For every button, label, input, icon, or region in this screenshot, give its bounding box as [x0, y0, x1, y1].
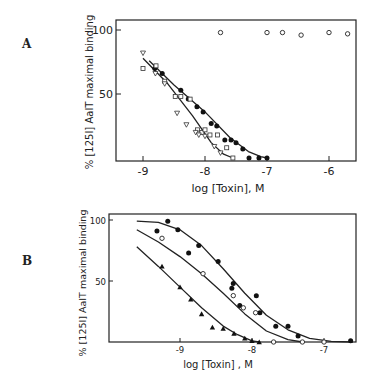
data-point — [231, 156, 235, 160]
panel-b: B -9-8-750100 log [Toxin] , M % [125I] A… — [22, 210, 356, 370]
data-point — [222, 138, 227, 143]
x-tick-label: -8 — [200, 165, 211, 178]
data-point — [194, 104, 199, 109]
data-point — [159, 264, 164, 269]
panel-b-label: B — [22, 254, 32, 268]
data-point — [196, 243, 201, 248]
fit-curve — [137, 221, 353, 342]
data-point — [201, 271, 205, 275]
data-point — [196, 133, 201, 138]
panel-b-frame — [109, 214, 356, 342]
data-point — [141, 51, 146, 56]
data-point — [178, 88, 183, 93]
data-point — [254, 293, 259, 298]
y-tick-label: 100 — [90, 216, 106, 226]
data-point — [201, 109, 206, 114]
x-tick-label: -6 — [324, 165, 335, 178]
data-point — [280, 30, 284, 34]
data-point — [175, 227, 180, 232]
data-point — [208, 133, 212, 137]
data-point — [327, 30, 331, 34]
data-point — [188, 97, 192, 101]
panel-a-label: A — [21, 37, 32, 51]
data-point — [299, 33, 303, 37]
data-point — [322, 340, 326, 344]
data-point — [229, 138, 234, 143]
data-point — [247, 156, 252, 161]
data-point — [215, 133, 219, 137]
data-point — [256, 156, 261, 161]
data-point — [203, 128, 207, 132]
panel-a-points — [141, 30, 350, 160]
data-point — [265, 156, 270, 161]
data-point — [234, 140, 239, 145]
panel-b-xlabel: log [Toxin] , M — [183, 359, 253, 370]
panel-a-axes: -9-8-7-650100 — [92, 24, 334, 178]
data-point — [173, 95, 177, 99]
data-point — [216, 259, 221, 264]
panel-b-ylabel: % [125I] AaIT maximal binding — [77, 210, 88, 357]
data-point — [345, 32, 349, 36]
data-point — [154, 228, 159, 233]
fit-curve — [137, 247, 259, 342]
data-point — [273, 324, 278, 329]
data-point — [153, 72, 158, 77]
panel-a-ylabel: % [125I] AaIT maximal binding — [84, 15, 95, 170]
data-point — [231, 281, 236, 286]
data-point — [160, 236, 164, 240]
y-tick-label: 100 — [92, 24, 113, 37]
data-point — [271, 340, 275, 344]
x-tick-label: -7 — [262, 165, 273, 178]
x-tick-label: -8 — [248, 345, 256, 355]
panel-b-curves — [137, 221, 353, 342]
figure: A -9-8-7-650100 log [Toxin], M % [125I] … — [0, 0, 376, 385]
data-point — [184, 123, 189, 128]
data-point — [165, 219, 170, 224]
data-point — [214, 124, 219, 129]
y-tick-label: 50 — [99, 88, 113, 101]
data-point — [286, 324, 291, 329]
data-point — [179, 95, 183, 99]
fit-curve — [149, 61, 267, 158]
data-point — [210, 325, 215, 330]
data-point — [154, 64, 158, 68]
panel-a: A -9-8-7-650100 log [Toxin], M % [125I] … — [21, 15, 356, 195]
data-point — [162, 82, 167, 87]
data-point — [265, 30, 269, 34]
data-point — [225, 146, 229, 150]
data-point — [229, 286, 234, 291]
panel-b-axes: -9-8-750100 — [90, 216, 328, 355]
data-point — [296, 333, 301, 338]
panel-a-frame — [116, 20, 356, 161]
data-point — [209, 121, 214, 126]
data-point — [186, 250, 191, 255]
panel-b-points — [154, 219, 353, 344]
data-point — [218, 30, 222, 34]
data-point — [231, 293, 235, 297]
data-point — [240, 147, 245, 152]
x-tick-label: -9 — [176, 345, 184, 355]
data-point — [175, 111, 180, 116]
data-point — [141, 66, 145, 70]
data-point — [253, 311, 257, 315]
data-point — [241, 306, 245, 310]
x-tick-label: -7 — [320, 345, 328, 355]
data-point — [160, 71, 165, 76]
y-tick-label: 50 — [95, 277, 106, 287]
data-point — [300, 340, 304, 344]
x-tick-label: -9 — [138, 165, 149, 178]
data-point — [199, 311, 204, 316]
data-point — [348, 338, 353, 343]
panel-a-xlabel: log [Toxin], M — [191, 182, 264, 195]
